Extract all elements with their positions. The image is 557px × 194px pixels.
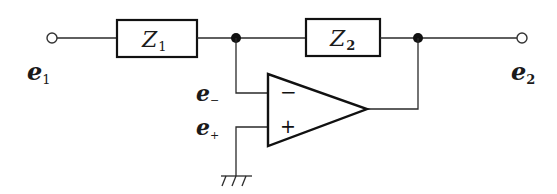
label-output-e2: e2 [511, 57, 535, 87]
opamp-noninverting-sign: + [280, 115, 296, 137]
label-inverting-e-minus: e− [196, 80, 219, 107]
label-input-e1: e1 [27, 57, 51, 87]
input-terminal [47, 33, 57, 43]
opamp-inverting-sign: − [280, 80, 297, 104]
wire-inverting-input [236, 38, 268, 93]
ground-icon [221, 176, 252, 186]
circuit-diagram: Z1 Z2 − + e1 e2 e− e+ [0, 0, 557, 194]
output-terminal [517, 33, 527, 43]
wire-noninverting-to-ground [236, 127, 268, 176]
label-noninverting-e-plus: e+ [196, 114, 219, 142]
